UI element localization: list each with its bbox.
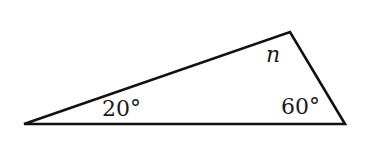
triangle-figure xyxy=(0,0,365,158)
right-angle-label: 60° xyxy=(281,96,320,118)
triangle-diagram: 20° 60° n xyxy=(0,0,365,158)
left-angle-label: 20° xyxy=(102,98,141,120)
top-angle-label: n xyxy=(266,44,280,66)
